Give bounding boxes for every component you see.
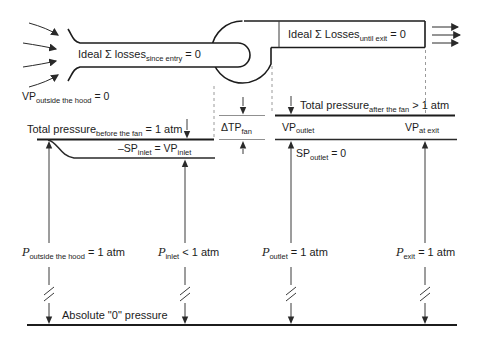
inlet-arrow [23,61,56,67]
tp-before-pointer-arrow [184,119,190,139]
label-ideal-losses-until-exit: Ideal Σ Lossesuntil exit = 0 [288,28,406,43]
label-total-pressure-after-fan: Total pressureafter the fan > 1 atm [300,99,449,114]
p-outlet-dimension-line [286,141,296,324]
line-break-mark [180,287,190,301]
inlet-airflow-arrows [23,23,58,87]
line-break-mark [286,287,296,301]
label-sp-outlet: SPoutlet = 0 [296,147,346,162]
label-sp-inlet-equals-vp-inlet: –SPinlet = VPinlet [118,142,192,157]
label-p-exit: Pexit = 1 atm [395,246,455,261]
label-vp-outlet: VPoutlet [282,121,315,136]
p-inlet-dimension-line [180,160,190,325]
label-vp-outside-hood: VPoutside the hood = 0 [22,90,109,105]
label-p-outside-hood: Poutside the hood = 1 atm [21,246,125,261]
inlet-arrow [29,75,58,87]
label-p-inlet: Pinlet < 1 atm [157,246,219,261]
label-p-outlet: Poutlet = 1 atm [261,246,328,261]
line-break-mark [420,287,430,301]
p-exit-dimension-line [420,141,430,324]
inlet-arrow [23,43,56,49]
fan-pressure-diagram: Ideal Σ lossessince entry = 0 Ideal Σ Lo… [0,0,479,341]
tp-after-pointer-arrow [288,96,294,115]
label-vp-at-exit: VPat exit [405,121,440,136]
exit-airflow-arrows [432,27,460,43]
inlet-arrow [29,23,58,35]
label-absolute-zero-pressure: Absolute "0" pressure [62,309,168,321]
diagram-canvas: Ideal Σ lossessince entry = 0 Ideal Σ Lo… [0,0,479,341]
label-delta-tp-fan: ΔTPfan [221,121,252,136]
p-outside-dimension-line [44,141,54,324]
line-break-mark [44,287,54,301]
label-total-pressure-before-fan: Total pressurebefore the fan = 1 atm [27,123,182,138]
